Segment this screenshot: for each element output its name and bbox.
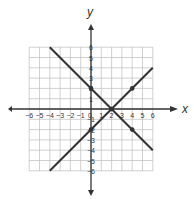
x-tick-label: −4: [46, 112, 54, 119]
data-point: [130, 86, 135, 91]
x-tick-label: −5: [36, 112, 44, 119]
y-tick-label: −6: [87, 168, 95, 175]
data-point: [130, 127, 135, 132]
data-point: [89, 127, 94, 132]
y-tick-label: −4: [87, 147, 95, 154]
y-tick-label: −1: [87, 116, 95, 123]
coordinate-plane: −6−5−4−3−2−10123456−6−5−4−3−2−1123456 x …: [0, 0, 194, 199]
y-axis-label: y: [86, 5, 94, 19]
x-tick-label: −3: [56, 112, 64, 119]
data-point: [89, 86, 94, 91]
x-tick-label: 2: [110, 112, 114, 119]
x-tick-label: −2: [66, 112, 74, 119]
y-tick-label: 3: [89, 75, 93, 82]
x-axis-arrow-left-icon: [8, 106, 12, 112]
x-tick-label: −1: [77, 112, 85, 119]
y-axis-arrow-down-icon: [88, 190, 94, 196]
y-tick-label: −5: [87, 158, 95, 165]
y-axis-arrow-up-icon: [88, 24, 94, 30]
x-tick-label: 6: [151, 112, 155, 119]
y-tick-label: 5: [89, 55, 93, 62]
y-tick-label: 1: [89, 96, 93, 103]
data-point: [109, 107, 114, 112]
x-tick-label: 5: [141, 112, 145, 119]
x-tick-label: −6: [25, 112, 33, 119]
y-tick-label: 4: [89, 65, 93, 72]
x-tick-label: 4: [130, 112, 134, 119]
x-axis-arrow-right-icon: [170, 106, 178, 112]
x-axis-label: x: [181, 102, 189, 116]
y-tick-label: 6: [89, 44, 93, 51]
y-tick-label: −3: [87, 137, 95, 144]
